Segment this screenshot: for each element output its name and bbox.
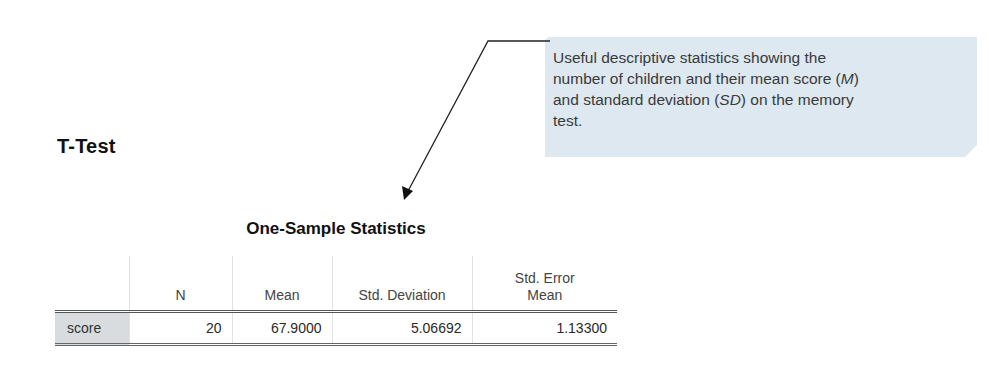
cell-mean: 67.9000 xyxy=(232,312,332,345)
annotation-callout: Useful descriptive statistics showing th… xyxy=(545,37,977,157)
table-title: One-Sample Statistics xyxy=(55,219,617,239)
annotation-line-2: number of children and their mean score … xyxy=(553,68,967,89)
cell-n: 20 xyxy=(129,312,232,345)
header-mean: Mean xyxy=(232,256,332,312)
annotation-line-1: Useful descriptive statistics showing th… xyxy=(553,47,967,68)
row-label-score: score xyxy=(55,312,129,345)
header-row: N Mean Std. Deviation Std. ErrorMean xyxy=(55,256,617,312)
header-std-error-mean: Std. ErrorMean xyxy=(472,256,617,312)
cell-std-error-mean: 1.13300 xyxy=(472,312,617,345)
header-std-deviation: Std. Deviation xyxy=(332,256,472,312)
annotation-line-4: test. xyxy=(553,110,967,131)
table-row: score 20 67.9000 5.06692 1.13300 xyxy=(55,312,617,345)
header-corner xyxy=(55,256,129,312)
cell-std-deviation: 5.06692 xyxy=(332,312,472,345)
annotation-line-3: and standard deviation (SD) on the memor… xyxy=(553,89,967,110)
section-title: T-Test xyxy=(57,135,116,158)
one-sample-statistics-table: N Mean Std. Deviation Std. ErrorMean sco… xyxy=(55,256,617,346)
header-n: N xyxy=(129,256,232,312)
